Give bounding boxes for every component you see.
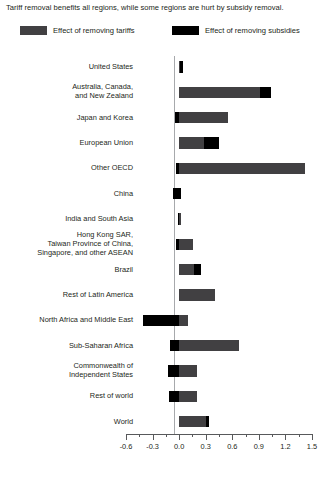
- bar-segment-tariffs: [179, 264, 194, 276]
- bar-segment-subsidies: [178, 213, 179, 225]
- bar-row: European Union: [0, 132, 323, 154]
- bar-segment-subsidies: [206, 416, 209, 428]
- x-tick-major: [126, 434, 127, 440]
- legend-label-tariffs: Effect of removing tariffs: [53, 26, 135, 35]
- bar-segment-subsidies: [143, 315, 179, 327]
- x-tick-major: [179, 434, 180, 440]
- legend-swatch-subsidies: [172, 26, 199, 35]
- category-label: India and South Asia: [3, 215, 133, 224]
- x-tick-label: -0.6: [120, 442, 133, 451]
- bar-track: [126, 208, 312, 230]
- bar-track: [126, 157, 312, 179]
- bar-row: Other OECD: [0, 157, 323, 179]
- bar-segment-tariffs: [179, 289, 215, 301]
- bar-segment-subsidies: [169, 391, 179, 403]
- bar-track: [126, 309, 312, 331]
- bar-track: [126, 284, 312, 306]
- legend-swatch-tariffs: [20, 26, 47, 35]
- bar-track: [126, 335, 312, 357]
- bar-row: United States: [0, 56, 323, 78]
- x-tick-label: 1.5: [307, 442, 317, 451]
- bar-segment-subsidies: [170, 340, 179, 352]
- x-tick-label: 0.0: [174, 442, 184, 451]
- bar-row: China: [0, 183, 323, 205]
- bar-segment-subsidies: [173, 188, 181, 200]
- bar-track: [126, 132, 312, 154]
- bar-segment-tariffs: [179, 416, 206, 428]
- bar-track: [126, 259, 312, 281]
- x-tick-minor: [192, 434, 193, 437]
- x-tick-label: 0.6: [227, 442, 237, 451]
- bar-track: [126, 233, 312, 255]
- x-tick-major: [285, 434, 286, 440]
- bar-track: [126, 183, 312, 205]
- chart-title: Tariff removal benefits all regions, whi…: [6, 3, 318, 13]
- bar-row: Hong Kong SAR,Taiwan Province of China,S…: [0, 233, 323, 255]
- bar-row: Australia, Canada,and New Zealand: [0, 81, 323, 103]
- chart-page: Tariff removal benefits all regions, whi…: [0, 0, 323, 477]
- bar-row: North Africa and Middle East: [0, 309, 323, 331]
- bar-segment-subsidies: [194, 264, 201, 276]
- bar-track: [126, 107, 312, 129]
- category-label: Brazil: [3, 265, 133, 274]
- category-label: Commonwealth ofIndependent States: [3, 363, 133, 380]
- bar-segment-subsidies: [168, 365, 180, 377]
- bar-segment-subsidies: [260, 87, 272, 99]
- bar-segment-tariffs: [179, 365, 197, 377]
- x-tick-label: 0.9: [254, 442, 264, 451]
- x-tick-major: [153, 434, 154, 440]
- bar-track: [126, 385, 312, 407]
- bar-segment-tariffs: [179, 340, 239, 352]
- x-tick-major: [259, 434, 260, 440]
- category-label: Rest of world: [3, 392, 133, 401]
- bar-track: [126, 360, 312, 382]
- bar-track: [126, 81, 312, 103]
- bar-segment-tariffs: [179, 87, 260, 99]
- bar-segment-subsidies: [176, 239, 179, 251]
- x-tick-major: [312, 434, 313, 440]
- category-label: Rest of Latin America: [3, 291, 133, 300]
- bar-row: India and South Asia: [0, 208, 323, 230]
- x-tick-minor: [272, 434, 273, 437]
- legend-item-tariffs: Effect of removing tariffs: [20, 26, 135, 35]
- bar-row: Brazil: [0, 259, 323, 281]
- x-tick-label: 1.2: [280, 442, 290, 451]
- category-label: Hong Kong SAR,Taiwan Province of China,S…: [3, 232, 133, 258]
- bar-row: Sub-Saharan Africa: [0, 335, 323, 357]
- bar-segment-subsidies: [176, 163, 179, 175]
- bar-segment-subsidies: [175, 112, 179, 124]
- bar-segment-tariffs: [179, 315, 187, 327]
- x-tick-minor: [139, 434, 140, 437]
- bar-segment-subsidies: [204, 137, 219, 149]
- bar-track: [126, 411, 312, 433]
- legend-item-subsidies: Effect of removing subsidies: [172, 26, 300, 35]
- x-tick-label: -0.3: [146, 442, 159, 451]
- bar-track: [126, 56, 312, 78]
- category-label: North Africa and Middle East: [3, 316, 133, 325]
- bar-row: World: [0, 411, 323, 433]
- bar-segment-tariffs: [179, 213, 181, 225]
- bar-row: Commonwealth ofIndependent States: [0, 360, 323, 382]
- category-label: United States: [3, 63, 133, 72]
- bar-segment-tariffs: [179, 391, 197, 403]
- bar-row: Rest of world: [0, 385, 323, 407]
- bar-row: Rest of Latin America: [0, 284, 323, 306]
- plot-area: United StatesAustralia, Canada,and New Z…: [0, 56, 323, 436]
- bar-segment-subsidies: [180, 61, 183, 73]
- chart-legend: Effect of removing tariffs Effect of rem…: [20, 26, 320, 40]
- category-label: European Union: [3, 139, 133, 148]
- category-label: World: [3, 417, 133, 426]
- category-label: Japan and Korea: [3, 113, 133, 122]
- x-tick-minor: [246, 434, 247, 437]
- bar-segment-tariffs: [179, 137, 204, 149]
- x-tick-major: [232, 434, 233, 440]
- category-label: China: [3, 189, 133, 198]
- category-label: Australia, Canada,and New Zealand: [3, 84, 133, 101]
- x-tick-major: [206, 434, 207, 440]
- category-label: Sub-Saharan Africa: [3, 341, 133, 350]
- category-label: Other OECD: [3, 164, 133, 173]
- x-tick-minor: [299, 434, 300, 437]
- legend-label-subsidies: Effect of removing subsidies: [205, 26, 300, 35]
- x-tick-minor: [219, 434, 220, 437]
- bar-row: Japan and Korea: [0, 107, 323, 129]
